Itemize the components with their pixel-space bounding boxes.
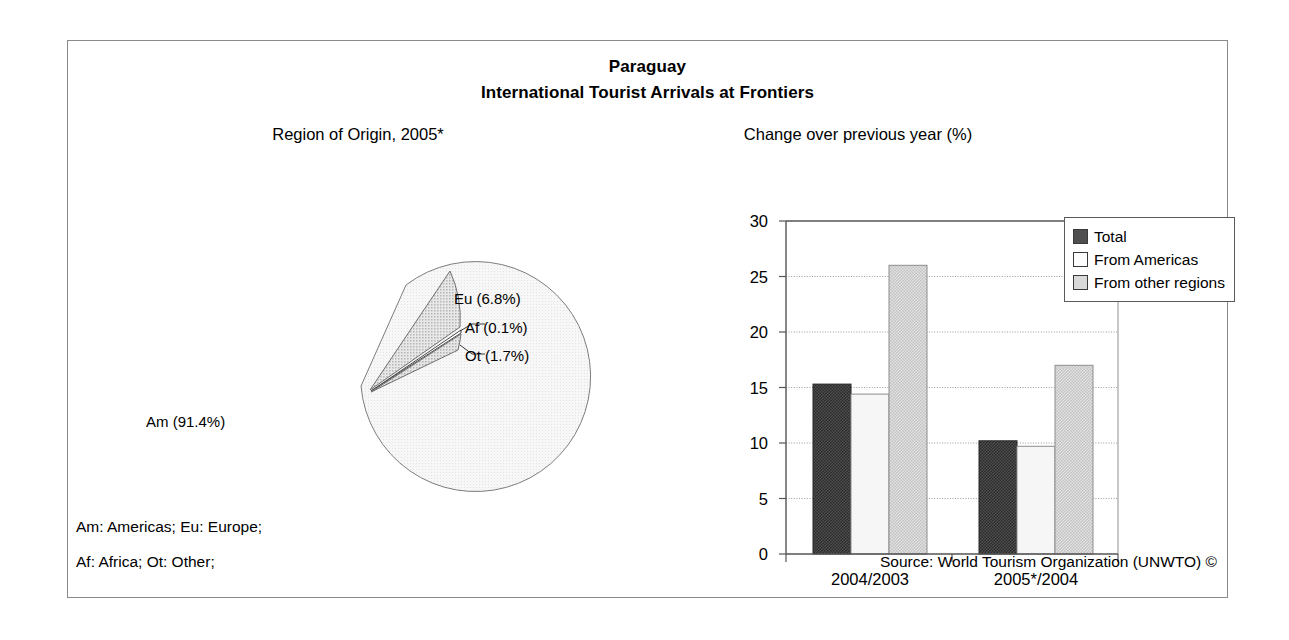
bar-total-2005-2004: [979, 441, 1017, 554]
pie-label-other: Ot (1.7%): [465, 347, 529, 364]
x-axis-tick-2004-2003: 2004/2003: [790, 570, 950, 589]
bar-total-2004-2003: [813, 384, 851, 554]
y-axis-tick-5: 5: [734, 491, 768, 508]
y-axis-tick-30: 30: [734, 213, 768, 230]
legend-item-from-other-regions: From other regions: [1073, 271, 1225, 294]
bar-chart: 30 25 20 15 10 5 0 2004/2003 2005*/2004 …: [668, 151, 1228, 581]
pie-label-africa: Af (0.1%): [465, 319, 528, 336]
pie-chart-subtitle: Region of Origin, 2005*: [218, 125, 498, 144]
bar-chart-subtitle: Change over previous year (%): [698, 125, 1018, 144]
pie-label-europe: Eu (6.8%): [454, 290, 521, 307]
bar-other-2005-2004: [1055, 365, 1093, 554]
chart-frame: Paraguay International Tourist Arrivals …: [67, 40, 1228, 598]
pie-chart: Eu (6.8%) Af (0.1%) Ot (1.7%) Am (91.4%): [68, 151, 638, 531]
legend-item-from-americas: From Americas: [1073, 248, 1225, 271]
source-note: Source: World Tourism Organization (UNWT…: [880, 553, 1217, 571]
legend-swatch-from-americas: [1073, 252, 1088, 267]
bar-americas-2005-2004: [1017, 446, 1055, 554]
y-axis-tick-10: 10: [734, 435, 768, 452]
pie-chart-svg: [68, 151, 638, 531]
footnote-abbreviations-line-1: Am: Americas; Eu: Europe;: [76, 518, 262, 536]
legend-label-from-other-regions: From other regions: [1094, 274, 1225, 292]
legend-swatch-total: [1073, 229, 1088, 244]
legend-label-from-americas: From Americas: [1094, 251, 1198, 269]
y-axis-tick-0: 0: [734, 546, 768, 563]
chart-title-series: International Tourist Arrivals at Fronti…: [68, 83, 1227, 103]
legend-label-total: Total: [1094, 228, 1127, 246]
y-axis-tick-15: 15: [734, 380, 768, 397]
y-axis-tick-25: 25: [734, 269, 768, 286]
bar-other-2004-2003: [889, 265, 927, 554]
legend-swatch-from-other-regions: [1073, 275, 1088, 290]
bar-chart-legend: Total From Americas From other regions: [1064, 217, 1235, 302]
legend-item-total: Total: [1073, 225, 1225, 248]
pie-label-americas: Am (91.4%): [146, 413, 225, 430]
bar-americas-2004-2003: [851, 394, 889, 554]
footnote-abbreviations-line-2: Af: Africa; Ot: Other;: [76, 553, 215, 571]
y-axis-tick-20: 20: [734, 324, 768, 341]
chart-title-country: Paraguay: [68, 57, 1227, 77]
x-axis-tick-2005-2004: 2005*/2004: [956, 570, 1116, 589]
